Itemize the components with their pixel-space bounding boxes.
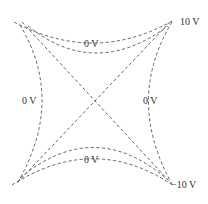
label-bottom-right-minus10v: −10 V bbox=[171, 180, 196, 190]
label-bottom-0v: 0 V bbox=[84, 155, 99, 165]
label-left-0v: 0 V bbox=[22, 96, 37, 106]
label-top-0v: 0 V bbox=[84, 39, 99, 49]
label-top-right-10v: 10 V bbox=[180, 17, 200, 27]
label-right-0v: 0 V bbox=[143, 96, 158, 106]
